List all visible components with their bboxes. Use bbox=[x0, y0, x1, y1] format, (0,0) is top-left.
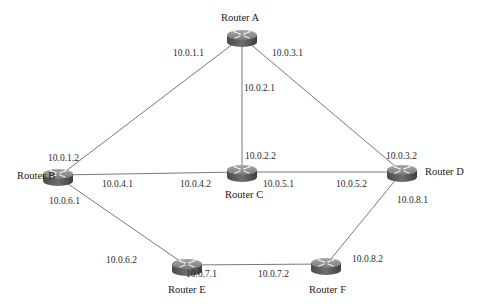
ip-label-e-f: 10.0.7.1 bbox=[186, 269, 217, 279]
ip-label-b-a: 10.0.1.2 bbox=[48, 153, 79, 163]
router-f-icon[interactable] bbox=[311, 258, 341, 275]
ip-label-e-b: 10.0.6.2 bbox=[106, 255, 137, 265]
router-a-label: Router A bbox=[221, 12, 259, 23]
router-a-icon[interactable] bbox=[227, 30, 257, 47]
ip-label-a-d: 10.0.3.1 bbox=[272, 48, 303, 58]
ip-label-d-a: 10.0.3.2 bbox=[386, 151, 417, 161]
ip-label-c-a: 10.0.2.2 bbox=[245, 151, 276, 161]
ip-label-d-f: 10.0.8.1 bbox=[397, 195, 428, 205]
ip-label-a-c: 10.0.2.1 bbox=[244, 83, 275, 93]
link-b-e bbox=[58, 177, 187, 266]
link-b-c bbox=[58, 172, 242, 175]
ip-label-b-c: 10.0.4.1 bbox=[102, 179, 133, 189]
ip-label-f-d: 10.0.8.2 bbox=[352, 254, 383, 264]
router-e-label: Router E bbox=[168, 284, 206, 295]
router-d-icon[interactable] bbox=[387, 165, 417, 182]
router-d-label: Router D bbox=[425, 166, 464, 177]
routers bbox=[43, 30, 417, 276]
links bbox=[58, 37, 402, 266]
ip-label-f-e: 10.0.7.2 bbox=[258, 269, 289, 279]
ip-label-a-b: 10.0.1.1 bbox=[173, 48, 204, 58]
ip-label-d-c: 10.0.5.2 bbox=[336, 179, 367, 189]
ip-label-c-d: 10.0.5.1 bbox=[263, 179, 294, 189]
router-f-label: Router F bbox=[309, 284, 346, 295]
router-c-label: Router C bbox=[225, 189, 263, 200]
ip-label-c-b: 10.0.4.2 bbox=[180, 179, 211, 189]
router-b-label: Router B bbox=[17, 170, 55, 181]
router-c-icon[interactable] bbox=[227, 165, 257, 182]
link-a-b bbox=[58, 37, 242, 177]
link-e-f bbox=[187, 264, 326, 265]
ip-label-b-e: 10.0.6.1 bbox=[49, 196, 80, 206]
